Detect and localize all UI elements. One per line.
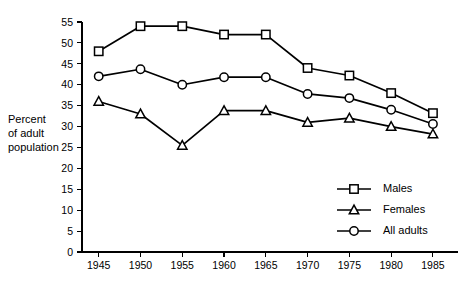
y-axis-title-line: of adult — [8, 127, 44, 139]
y-axis-tick-label: 35 — [61, 99, 73, 111]
x-axis-tick-label: 1975 — [338, 259, 362, 271]
data-point-marker-square — [220, 30, 228, 38]
x-axis-tick-label: 1945 — [87, 259, 111, 271]
legend-label: Females — [383, 203, 426, 215]
data-point-marker-circle — [262, 73, 270, 81]
y-axis-tick-label: 15 — [61, 183, 73, 195]
y-axis-title-line: Percent — [8, 113, 46, 125]
data-point-marker-circle — [350, 227, 358, 235]
y-axis-tick-label: 10 — [61, 204, 73, 216]
data-point-marker-square — [429, 109, 437, 117]
data-point-marker-circle — [136, 65, 144, 73]
data-point-marker-circle — [387, 106, 395, 114]
x-axis-tick-label: 1970 — [296, 259, 320, 271]
data-point-marker-square — [178, 22, 186, 30]
y-axis-tick-label: 40 — [61, 78, 73, 90]
x-axis-tick-label: 1950 — [129, 259, 153, 271]
x-axis-tick-label: 1985 — [421, 259, 445, 271]
legend-label: All adults — [383, 224, 428, 236]
y-axis-tick-label: 25 — [61, 141, 73, 153]
data-point-marker-square — [262, 30, 270, 38]
legend-label: Males — [383, 182, 413, 194]
x-axis-tick-label: 1955 — [171, 259, 195, 271]
y-axis-title-line: population — [8, 141, 59, 153]
x-axis-tick-label: 1980 — [379, 259, 403, 271]
data-point-marker-square — [136, 22, 144, 30]
data-point-marker-circle — [178, 81, 186, 89]
data-point-marker-square — [345, 71, 353, 79]
data-point-marker-square — [350, 185, 358, 193]
data-point-marker-circle — [95, 72, 103, 80]
y-axis-tick-label: 30 — [61, 120, 73, 132]
data-point-marker-square — [303, 64, 311, 72]
x-axis-tick-label: 1965 — [254, 259, 278, 271]
y-axis-tick-label: 50 — [61, 37, 73, 49]
y-axis-tick-label: 55 — [61, 16, 73, 28]
data-point-marker-square — [387, 89, 395, 97]
y-axis-tick-label: 0 — [67, 246, 73, 258]
data-point-marker-square — [95, 47, 103, 55]
chart-canvas: 0510152025303540455055 19451950195519601… — [0, 0, 469, 289]
y-axis-tick-label: 45 — [61, 58, 73, 70]
data-point-marker-circle — [345, 94, 353, 102]
y-axis-tick-label: 20 — [61, 162, 73, 174]
data-point-marker-circle — [429, 120, 437, 128]
line-chart: 0510152025303540455055 19451950195519601… — [0, 0, 469, 289]
data-point-marker-circle — [303, 90, 311, 98]
x-axis-tick-label: 1960 — [212, 259, 236, 271]
y-axis-tick-label: 5 — [67, 225, 73, 237]
data-point-marker-circle — [220, 73, 228, 81]
